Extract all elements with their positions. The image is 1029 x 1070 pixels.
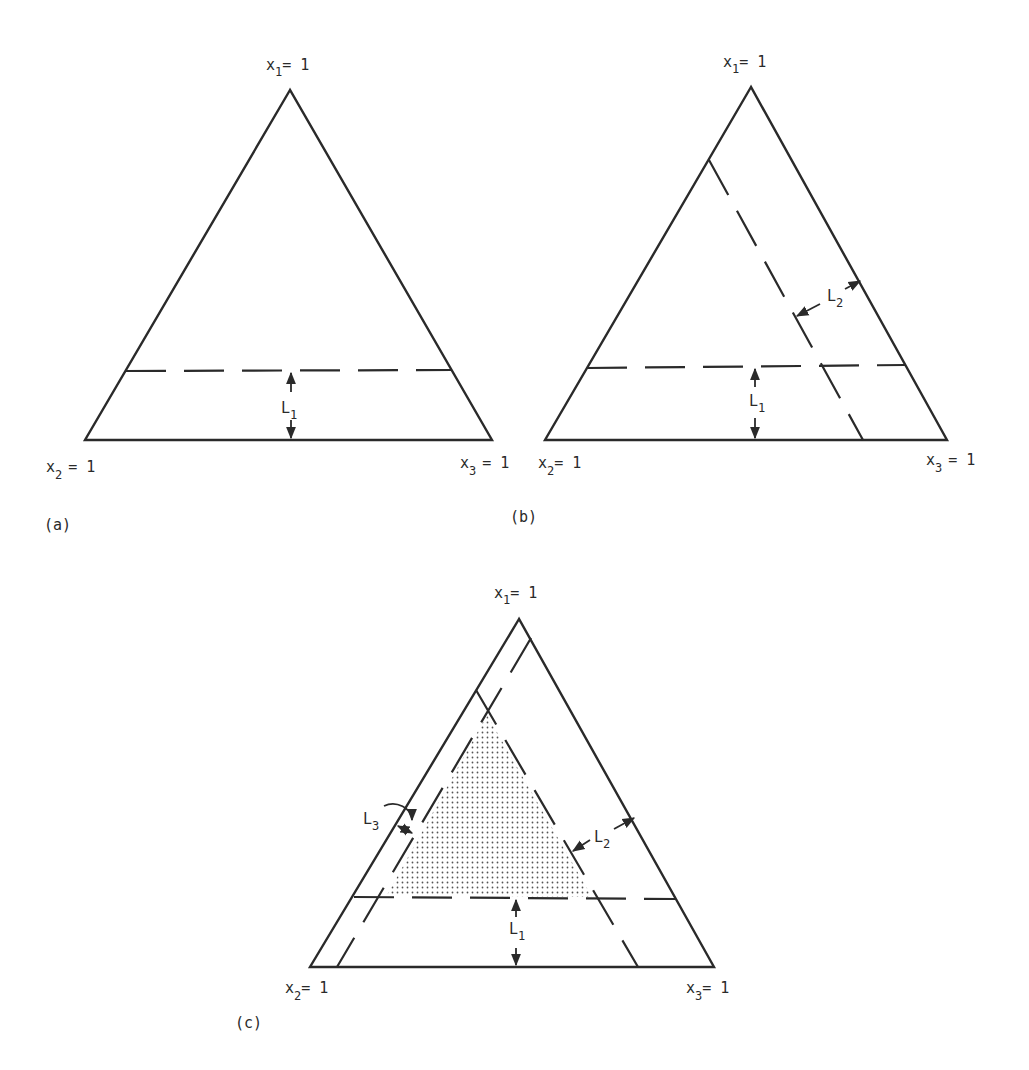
panel-b: L1 L2 x1= 1 x2= 1 x3= 1 (b): [510, 53, 975, 526]
double-arrow-icon: [398, 826, 412, 833]
panel-caption: (c): [235, 1014, 262, 1032]
l1-label: L1: [749, 392, 765, 415]
constraint-line-l1: [354, 897, 676, 899]
feasible-region-shading: [387, 715, 592, 897]
vertex-label-x1: x1= 1: [266, 56, 309, 79]
l2-label: L2: [827, 287, 843, 310]
vertex-label-x2: x2= 1: [46, 458, 95, 482]
constraint-line-l1: [126, 370, 452, 371]
vertex-label-x1: x1= 1: [723, 53, 766, 76]
vertex-label-x2: x2= 1: [538, 454, 581, 478]
panel-caption: (b): [510, 508, 537, 526]
vertex-label-x3: x3= 1: [926, 451, 975, 475]
l3-label: L3: [363, 810, 379, 833]
ternary-constraint-figure: L1 x1= 1 x2= 1 x3= 1 (a) L1 L2 x1= 1 x2=…: [0, 0, 1029, 1070]
l2-label: L2: [594, 828, 610, 851]
panel-a: L1 x1= 1 x2= 1 x3= 1 (a): [44, 56, 509, 534]
constraint-line-l1: [587, 365, 905, 368]
l1-label: L1: [281, 399, 297, 422]
panel-caption: (a): [44, 516, 71, 534]
vertex-label-x3: x3= 1: [686, 979, 729, 1003]
arrow-left-icon: [797, 304, 820, 316]
arrow-left-icon: [573, 840, 590, 851]
simplex-triangle: [545, 87, 947, 440]
arrow-right-icon: [614, 818, 634, 829]
arrow-right-icon: [845, 281, 860, 289]
simplex-triangle: [85, 90, 492, 440]
vertex-label-x2: x2= 1: [285, 979, 328, 1003]
vertex-label-x1: x1= 1: [494, 584, 537, 607]
panel-c: L1 L2 L3 x1= 1 x2= 1 x3= 1 (c): [235, 584, 729, 1032]
vertex-label-x3: x3= 1: [460, 454, 509, 478]
l1-label: L1: [509, 920, 525, 943]
